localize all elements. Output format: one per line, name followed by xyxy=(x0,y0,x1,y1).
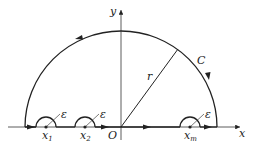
point-label-x1: x1 xyxy=(42,129,53,143)
direction-arrow-icon xyxy=(27,125,35,130)
point-label-x2: x2 xyxy=(80,129,91,143)
contour-diagram: y x O C r ε ε ε x1 x2 xm xyxy=(0,0,253,157)
epsilon-label-m: ε xyxy=(205,108,211,121)
point-label-xm: xm xyxy=(184,129,197,143)
direction-arrow-icon xyxy=(143,125,151,130)
origin-label: O xyxy=(108,129,117,142)
radius-line xyxy=(121,49,178,127)
direction-arrow-icon xyxy=(75,35,83,40)
contour-label: C xyxy=(197,54,206,67)
epsilon-leader-2 xyxy=(85,114,99,127)
x-axis-label: x xyxy=(239,127,246,140)
direction-arrow-icon xyxy=(205,72,211,80)
epsilon-leader-1 xyxy=(46,114,60,127)
epsilon-leader-m xyxy=(190,114,204,127)
direction-arrow-icon xyxy=(204,125,212,130)
radius-label: r xyxy=(147,70,153,83)
epsilon-label-2: ε xyxy=(100,108,106,121)
y-axis-label: y xyxy=(109,5,117,18)
epsilon-label-1: ε xyxy=(61,108,67,121)
